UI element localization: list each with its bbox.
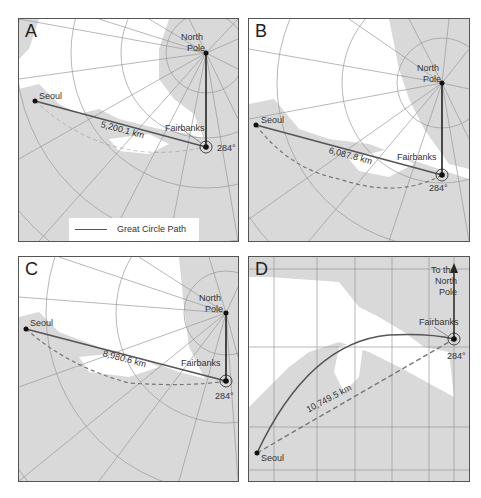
north-pole-label: To the bbox=[431, 265, 456, 275]
map-c bbox=[19, 257, 238, 481]
origin-label: Seoul bbox=[30, 318, 53, 328]
panel-letter: C bbox=[25, 259, 38, 280]
north-pole-label: Pole bbox=[205, 304, 223, 314]
legend-label: Great Circle Path bbox=[117, 224, 186, 234]
panel-a: A North Pole Seoul Fairbanks 284° 5,200.… bbox=[18, 18, 239, 242]
legend: Great Circle Path Rhumb Line bbox=[69, 218, 199, 242]
destination-label: Fairbanks bbox=[397, 152, 437, 162]
origin-label: Seoul bbox=[39, 91, 62, 101]
north-pole-label: Pole bbox=[187, 43, 205, 53]
bearing-label: 284° bbox=[215, 391, 234, 401]
map-d bbox=[249, 257, 469, 481]
map-b bbox=[249, 19, 469, 241]
legend-item-rhumb-line: Rhumb Line bbox=[75, 240, 166, 242]
destination-label: Fairbanks bbox=[165, 123, 205, 133]
north-pole-label: Pole bbox=[439, 287, 457, 297]
north-pole-label: North bbox=[435, 276, 457, 286]
panel-letter: D bbox=[255, 259, 268, 280]
origin-label: Seoul bbox=[261, 453, 284, 463]
origin-label: Seoul bbox=[261, 115, 284, 125]
north-pole-label: North bbox=[181, 32, 203, 42]
bearing-label: 284° bbox=[217, 143, 236, 153]
panel-b: B North Pole Seoul Fairbanks 284° 6,087.… bbox=[248, 18, 470, 242]
north-pole-label: Pole bbox=[423, 74, 441, 84]
bearing-label: 284° bbox=[429, 183, 448, 193]
great-circle-swatch bbox=[75, 229, 107, 230]
legend-label: Rhumb Line bbox=[117, 240, 166, 242]
panel-d: D To the North Pole Seoul Fairbanks 284°… bbox=[248, 256, 470, 482]
destination-label: Fairbanks bbox=[419, 317, 459, 327]
bearing-label: 284° bbox=[447, 351, 466, 361]
legend-item-great-circle: Great Circle Path bbox=[75, 224, 186, 234]
north-pole-label: North bbox=[199, 293, 221, 303]
panel-letter: B bbox=[255, 21, 267, 42]
panel-c: C North Pole Seoul Fairbanks 284° 8,980.… bbox=[18, 256, 239, 482]
destination-label: Fairbanks bbox=[181, 358, 221, 368]
north-pole-label: North bbox=[417, 63, 439, 73]
panel-letter: A bbox=[25, 21, 37, 42]
